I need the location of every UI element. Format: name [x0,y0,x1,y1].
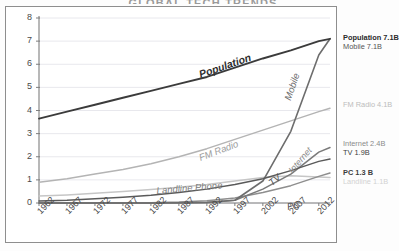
y-axis-label: 4 [18,105,32,115]
y-axis-label: 5 [18,81,32,91]
y-axis-label: 2 [18,151,32,161]
y-axis-label: 6 [18,58,32,68]
chart-plot-area: 012345678 196219671972197719821987199219… [5,6,337,243]
chart-title-cropped: GLOBAL TECH TRENDS [58,0,348,4]
y-axis-label: 7 [18,35,32,45]
y-axis-label: 8 [18,12,32,22]
y-axis-label: 1 [18,174,32,184]
legend-end-value: PC 1.3 B [343,168,373,177]
chart-screenshot: GLOBAL TECH TRENDS 012345678 19621967197… [0,0,399,251]
legend-end-value: Population 7.1B [343,33,399,42]
inline-series-label: PC [286,199,301,211]
chart-title-text: GLOBAL TECH TRENDS [128,0,277,4]
series-line-population [39,39,330,119]
legend-end-value: Landline 1.1B [343,177,388,186]
series-line-fm-radio [39,108,330,182]
series-line-mobile [39,39,330,203]
y-axis-label: 3 [18,128,32,138]
legend-end-value: TV 1.9B [343,148,370,157]
legend-end-value: FM Radio 4.1B [343,100,392,109]
legend-end-value: Internet 2.4B [343,139,385,148]
legend-end-value: Mobile 7.1B [343,42,382,51]
y-axis-label: 0 [18,197,32,207]
